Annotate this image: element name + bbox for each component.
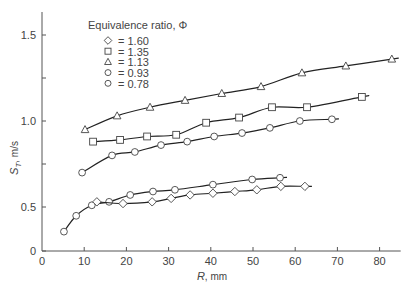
diamond-marker	[231, 187, 239, 195]
axes	[42, 12, 401, 251]
y-axis-label: ST, m/s	[8, 141, 23, 175]
x-tick-label: 70	[331, 255, 343, 267]
circle-marker	[239, 130, 246, 137]
circle-marker	[131, 149, 138, 156]
circle-marker	[296, 118, 303, 125]
square-marker	[203, 119, 210, 126]
square-marker	[269, 104, 276, 111]
x-tick-label: 10	[78, 255, 90, 267]
legend: Equivalence ratio, Φ= 1.60= 1.35= 1.13= …	[88, 19, 187, 90]
circle-marker	[106, 198, 113, 205]
diamond-marker	[253, 186, 261, 194]
x-tick-label: 60	[289, 255, 301, 267]
circle-marker	[109, 152, 116, 159]
y-tick-label: 1.5	[21, 29, 36, 41]
diamond-marker	[119, 199, 127, 207]
circle-marker	[184, 138, 191, 145]
x-axis-label: R, mm	[197, 270, 227, 282]
x-tick-label: 50	[247, 255, 259, 267]
circle-marker	[277, 174, 284, 181]
circle-marker	[266, 124, 273, 131]
diamond-marker	[186, 191, 194, 199]
ticks: 0102030405060708000.51.01.5	[21, 29, 386, 267]
diamond-marker	[167, 194, 175, 202]
circle-marker	[61, 228, 68, 235]
diamond-marker	[277, 182, 285, 190]
circle-marker	[172, 186, 179, 193]
circle-marker	[79, 169, 86, 176]
circle-marker	[105, 70, 111, 76]
x-tick-label: 20	[120, 255, 132, 267]
circle-marker	[73, 212, 80, 219]
series-line	[82, 119, 339, 173]
diamond-marker	[148, 198, 156, 206]
legend-entry-label: = 0.78	[118, 78, 149, 90]
data-series	[61, 55, 399, 235]
x-tick-label: 30	[162, 255, 174, 267]
square-marker	[105, 48, 111, 54]
x-tick-label: 40	[205, 255, 217, 267]
square-marker	[304, 104, 311, 111]
circle-marker	[158, 142, 165, 149]
legend-title: Equivalence ratio, Φ	[88, 19, 187, 31]
square-marker	[173, 131, 180, 138]
diamond-marker	[104, 37, 112, 45]
x-tick-label: 0	[39, 255, 45, 267]
y-tick-label: 0.5	[21, 201, 36, 213]
circle-marker	[211, 133, 218, 140]
square-marker	[144, 133, 151, 140]
x-tick-label: 80	[373, 255, 385, 267]
circle-marker	[329, 116, 336, 123]
square-marker	[236, 114, 243, 121]
circle-marker	[105, 80, 111, 86]
square-marker	[117, 137, 124, 144]
diamond-marker	[209, 189, 217, 197]
series-0.78	[61, 174, 287, 235]
circle-marker	[127, 192, 134, 199]
square-marker	[358, 94, 365, 101]
circle-marker	[150, 188, 157, 195]
diamond-marker	[301, 182, 309, 190]
y-tick-label: 1.0	[21, 115, 36, 127]
circle-marker	[249, 176, 256, 183]
y-tick-label: 0	[30, 245, 36, 257]
triangle-marker	[81, 126, 89, 133]
chart: 0102030405060708000.51.01.5 Equivalence …	[0, 0, 407, 292]
square-marker	[90, 138, 97, 145]
circle-marker	[210, 181, 217, 188]
triangle-marker	[105, 58, 112, 64]
